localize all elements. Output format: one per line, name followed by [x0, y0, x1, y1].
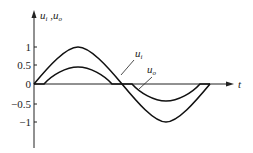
- y-ticks: 1 0.5 0 −0.5 −1: [11, 41, 31, 128]
- y-axis-arrow-icon: [32, 10, 37, 18]
- annotation-leader-u_i: [121, 60, 134, 75]
- x-axis-arrow-icon: [226, 82, 234, 87]
- tick-label-1: 1: [26, 41, 32, 53]
- y-axis-label: ui ,uo: [40, 9, 62, 23]
- annotation-leader-u_o: [139, 77, 152, 89]
- tick-label-neg-0.5: −0.5: [11, 98, 31, 110]
- tick-label-0.5: 0.5: [17, 59, 31, 71]
- annotation-u_i: ui: [135, 47, 143, 61]
- waveform-chart: ui ,uo t 1 0.5 0 −0.5 −1 ui uo: [0, 0, 253, 153]
- x-axis-label: t: [238, 78, 242, 90]
- annotation-u_o: uo: [147, 63, 157, 77]
- tick-label-neg-1: −1: [19, 116, 31, 128]
- tick-label-0: 0: [26, 78, 32, 90]
